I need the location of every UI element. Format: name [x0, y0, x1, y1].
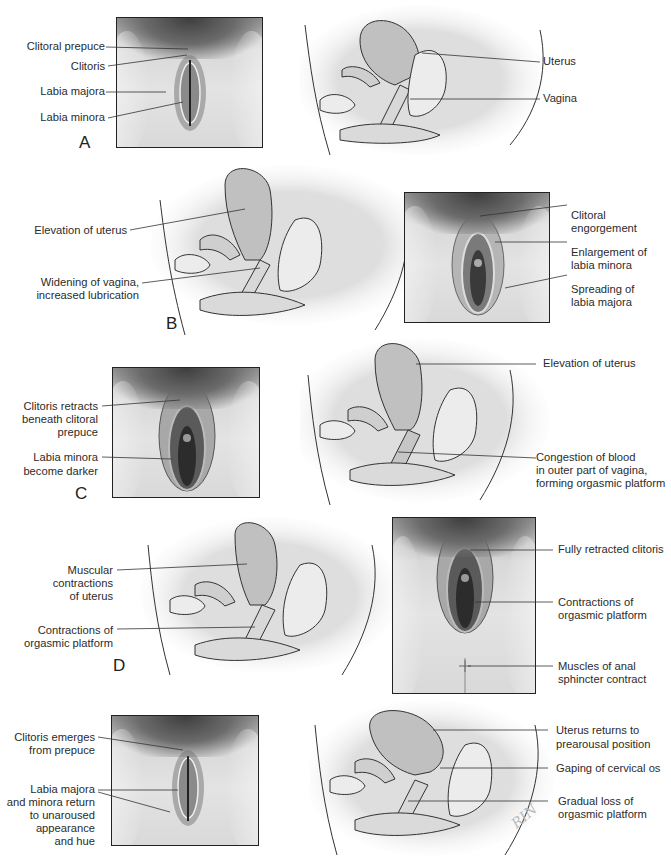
label-vagina: Vagina	[543, 92, 577, 105]
label-gradual-loss-1: Gradual loss of	[558, 795, 633, 808]
label-clitoral-engorgement-1: Clitoral	[571, 209, 606, 222]
leader-lines-a2	[0, 0, 671, 160]
label-spreading-labia-majora-1: Spreading of	[571, 283, 634, 296]
label-gradual-loss-2: orgasmic platform	[558, 808, 647, 821]
label-congestion-3: forming orgasmic platform	[536, 477, 665, 490]
label-anal-sphincter-2: sphincter contract	[558, 673, 646, 686]
label-uterus-returns-1: Uterus returns to	[556, 724, 639, 737]
label-fully-retracted-clitoris: Fully retracted clitoris	[558, 543, 664, 556]
label-uterus-returns-2: prearousal position	[556, 738, 651, 751]
label-enlargement-labia-minora-2: labia minora	[571, 259, 632, 272]
label-congestion-1: Congestion of blood	[536, 451, 636, 464]
label-gaping-cervical-os: Gaping of cervical os	[556, 762, 660, 775]
label-elevation-of-uterus-c: Elevation of uterus	[543, 357, 636, 370]
label-anal-sphincter-1: Muscles of anal	[558, 660, 636, 673]
label-enlargement-labia-minora-1: Enlargement of	[571, 246, 647, 259]
label-uterus: Uterus	[543, 55, 576, 68]
label-congestion-2: in outer part of vagina,	[536, 464, 647, 477]
label-contractions-platform-ext-2: orgasmic platform	[558, 609, 647, 622]
label-clitoral-engorgement-2: engorgement	[571, 222, 637, 235]
label-spreading-labia-majora-2: labia majora	[571, 296, 632, 309]
label-contractions-platform-ext-1: Contractions of	[558, 596, 633, 609]
